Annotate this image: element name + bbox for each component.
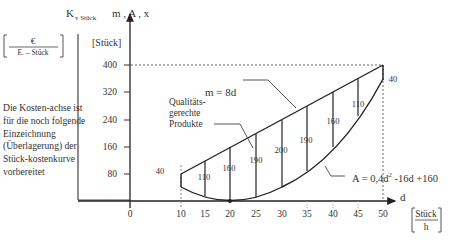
- svg-text:190: 190: [300, 135, 313, 145]
- svg-text:35: 35: [302, 209, 312, 219]
- svg-text:400: 400: [103, 60, 118, 70]
- svg-text:€: €: [31, 36, 36, 46]
- y-tick-labels: 80 160 240 320 400: [103, 60, 118, 179]
- svg-text:Stück: Stück: [415, 209, 437, 219]
- svg-text:160: 160: [223, 163, 236, 173]
- svg-text:E. – Stück: E. – Stück: [17, 48, 48, 57]
- svg-text:20: 20: [225, 209, 235, 219]
- svg-text:50: 50: [378, 209, 388, 219]
- svg-text:110: 110: [198, 172, 211, 182]
- m-equation: m = 8d: [205, 86, 237, 98]
- svg-text:Qualitäts-: Qualitäts-: [169, 97, 206, 107]
- svg-text:80: 80: [108, 169, 118, 179]
- x-axis-title: d: [400, 191, 406, 203]
- svg-text:gerechte: gerechte: [169, 108, 200, 118]
- x-tick-labels: 0 10 15 20 25 30 35 40 45 50: [128, 209, 388, 219]
- quality-label: Qualitäts- gerechte Produkte: [169, 97, 206, 129]
- x-unit: Stück h: [412, 208, 441, 232]
- cost-axis-note: Die Kosten-achse ist für die noch folgen…: [3, 102, 93, 179]
- y-unit: [Stück]: [92, 37, 121, 48]
- svg-text:160: 160: [327, 116, 340, 126]
- svg-text:240: 240: [103, 115, 118, 125]
- A-leader: [325, 166, 345, 176]
- y-ticks: [124, 65, 130, 174]
- x-ticks: [307, 201, 358, 208]
- k-unit: € E. – Stück: [4, 35, 63, 57]
- quality-leader: [214, 124, 253, 148]
- svg-text:40: 40: [156, 166, 165, 176]
- svg-text:160: 160: [103, 142, 118, 152]
- svg-text:0: 0: [128, 209, 133, 219]
- A-equation: A = 0,4d2 -16d +160: [352, 171, 438, 184]
- svg-text:h: h: [424, 222, 429, 232]
- svg-text:45: 45: [353, 209, 363, 219]
- svg-text:40: 40: [328, 209, 338, 219]
- svg-text:320: 320: [103, 87, 118, 97]
- min-point: [228, 199, 232, 203]
- m-leader: [243, 80, 296, 108]
- k-axis-title: Kv Stück: [66, 7, 97, 22]
- y-axis-title: m , A , x: [112, 7, 150, 19]
- svg-text:190: 190: [250, 155, 263, 165]
- svg-text:40: 40: [389, 74, 398, 84]
- svg-text:110: 110: [352, 99, 365, 109]
- svg-text:25: 25: [251, 209, 261, 219]
- svg-text:30: 30: [277, 209, 287, 219]
- svg-text:15: 15: [200, 209, 210, 219]
- svg-text:200: 200: [275, 145, 288, 155]
- svg-text:Produkte: Produkte: [169, 119, 203, 129]
- svg-text:10: 10: [176, 209, 186, 219]
